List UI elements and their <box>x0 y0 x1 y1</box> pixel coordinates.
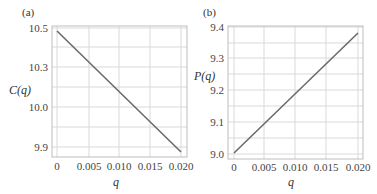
figure: (a) 10.5 10.3 10.0 9.9 0 0.005 0.010 0.0 <box>0 0 377 194</box>
x-tick-b: 0.010 <box>283 161 308 173</box>
x-tick-a: 0 <box>54 160 60 172</box>
x-axis-label-a: q <box>113 175 119 189</box>
y-tick-a: 10.0 <box>29 101 49 113</box>
y-axis-label-b: P(q) <box>193 69 215 83</box>
y-tick-b: 9.4 <box>210 21 224 33</box>
y-tick-b: 9.1 <box>210 116 224 128</box>
y-tick-a: 9.9 <box>34 141 48 153</box>
x-tick-a: 0.020 <box>169 160 194 172</box>
y-tick-b: 9.3 <box>210 52 224 64</box>
series-line-p <box>234 33 358 153</box>
x-tick-b: 0.020 <box>346 161 371 173</box>
panel-label-a: (a) <box>22 6 35 19</box>
chart-a: (a) 10.5 10.3 10.0 9.9 0 0.005 0.010 0.0 <box>9 6 194 189</box>
x-tick-a: 0.005 <box>77 160 102 172</box>
x-tick-b: 0.015 <box>314 161 339 173</box>
x-axis-label-b: q <box>288 175 294 189</box>
panel-label-b: (b) <box>203 6 216 19</box>
x-tick-a: 0.015 <box>138 160 163 172</box>
y-tick-a: 10.3 <box>29 61 49 73</box>
x-tick-b: 0.005 <box>252 161 277 173</box>
x-tick-b: 0 <box>231 161 237 173</box>
y-tick-b: 9.0 <box>210 148 224 160</box>
y-tick-b: 9.2 <box>210 84 224 96</box>
chart-b: (b) 9.4 9.3 9.2 9.1 9.0 0 0.005 0.010 0.… <box>193 6 371 189</box>
y-tick-a: 10.5 <box>29 22 49 34</box>
y-axis-label-a: C(q) <box>9 83 31 97</box>
x-tick-a: 0.010 <box>107 160 132 172</box>
